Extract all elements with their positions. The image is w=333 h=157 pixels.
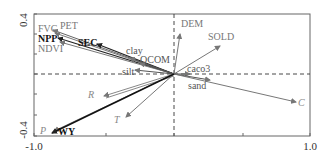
x-tick-label-min: -1.0	[25, 140, 43, 152]
x-tick-label-max: 1.0	[303, 140, 317, 152]
label-silt: silt	[122, 66, 134, 77]
label-SEC: SEC	[78, 37, 97, 48]
y-tick-label-max: 0.4	[17, 13, 29, 27]
label-T: T	[114, 114, 121, 125]
label-WY: WY	[58, 126, 76, 137]
label-caco3: caco3	[187, 63, 210, 74]
label-PET: PET	[60, 20, 78, 31]
label-C: C	[298, 97, 305, 108]
label-R: R	[87, 89, 94, 100]
y-tick-label-min: -0.4	[17, 121, 29, 139]
arrow-R	[104, 74, 174, 96]
label-OCOM: OCOM	[140, 54, 170, 65]
label-P: P	[39, 125, 46, 136]
label-DEM: DEM	[181, 18, 203, 29]
arrow-DEM	[174, 34, 180, 74]
label-SOLD: SOLD	[208, 31, 234, 42]
arrow-WY	[52, 74, 174, 133]
label-NDVI: NDVI	[38, 43, 63, 54]
arrow-T	[126, 74, 174, 117]
label-sand: sand	[188, 80, 206, 91]
biplot-chart: 0.4 -0.4 -1.0 1.0 FVC PET NPP NDVI SEC c…	[0, 0, 333, 157]
